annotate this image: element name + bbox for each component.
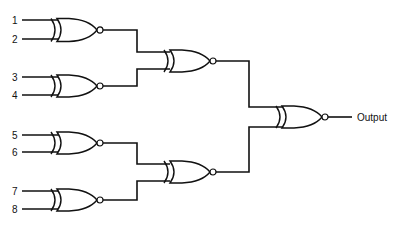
- xnor-tree-diagram: 1 2 3 4 5 6 7 8 Output: [0, 0, 402, 230]
- xnor-gate-6-icon: [164, 161, 216, 183]
- input-label-1: 1: [12, 15, 18, 26]
- input-label-4: 4: [12, 90, 18, 101]
- input-label-5: 5: [12, 130, 18, 141]
- input-label-7: 7: [12, 186, 18, 197]
- input-label-3: 3: [12, 72, 18, 83]
- xnor-gate-3-icon: [51, 132, 103, 154]
- level1-wires: [103, 30, 170, 200]
- xnor-gate-1-icon: [51, 18, 103, 41]
- xnor-gate-final-icon: [276, 106, 328, 128]
- input-wires: [22, 20, 58, 209]
- input-label-6: 6: [12, 147, 18, 158]
- xnor-gate-5-icon: [164, 50, 216, 72]
- input-label-8: 8: [12, 204, 18, 215]
- output-label: Output: [357, 112, 387, 123]
- xnor-gate-4-icon: [51, 189, 103, 211]
- xnor-gate-2-icon: [51, 75, 103, 97]
- level2-wires: [216, 61, 283, 172]
- input-label-2: 2: [12, 34, 18, 45]
